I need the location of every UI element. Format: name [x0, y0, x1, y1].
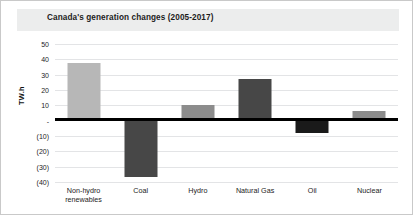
x-axis-label: Coal	[112, 186, 169, 195]
y-axis-tick-label: 50	[9, 41, 49, 48]
bar-slot	[55, 44, 112, 182]
bar[interactable]	[296, 121, 329, 133]
x-axis-label: Oil	[284, 186, 341, 195]
y-axis-tick-label: 30	[9, 71, 49, 78]
bar[interactable]	[239, 79, 272, 120]
y-axis-tick-label: (30)	[9, 163, 49, 170]
bar-slot	[169, 44, 226, 182]
x-axis-label: Hydro	[169, 186, 226, 195]
x-axis-label: Nuclear	[341, 186, 398, 195]
bar-slot	[284, 44, 341, 182]
y-axis-tick-label: (20)	[9, 148, 49, 155]
y-axis-tick-label: -	[9, 117, 49, 124]
y-axis-tick-label: (10)	[9, 133, 49, 140]
y-axis-tick-label: 40	[9, 56, 49, 63]
gridline	[55, 182, 398, 183]
y-axis-tick-label: 20	[9, 87, 49, 94]
x-axis-label: Non-hydro renewables	[55, 186, 112, 204]
bar-slot	[227, 44, 284, 182]
y-axis-tick-label: 10	[9, 102, 49, 109]
zero-axis-line	[55, 118, 398, 121]
y-axis-tick-label: (40)	[9, 179, 49, 186]
bar[interactable]	[124, 121, 157, 177]
bar-slot	[112, 44, 169, 182]
x-axis-labels: Non-hydro renewablesCoalHydroNatural Gas…	[55, 186, 398, 212]
chart-frame: Canada's generation changes (2005-2017) …	[0, 0, 413, 215]
plot-area: 5040302010-(10)(20)(30)(40)	[55, 44, 398, 182]
chart-title: Canada's generation changes (2005-2017)	[47, 13, 213, 22]
bar-slot	[341, 44, 398, 182]
x-axis-label: Natural Gas	[227, 186, 284, 195]
bar[interactable]	[67, 63, 100, 121]
